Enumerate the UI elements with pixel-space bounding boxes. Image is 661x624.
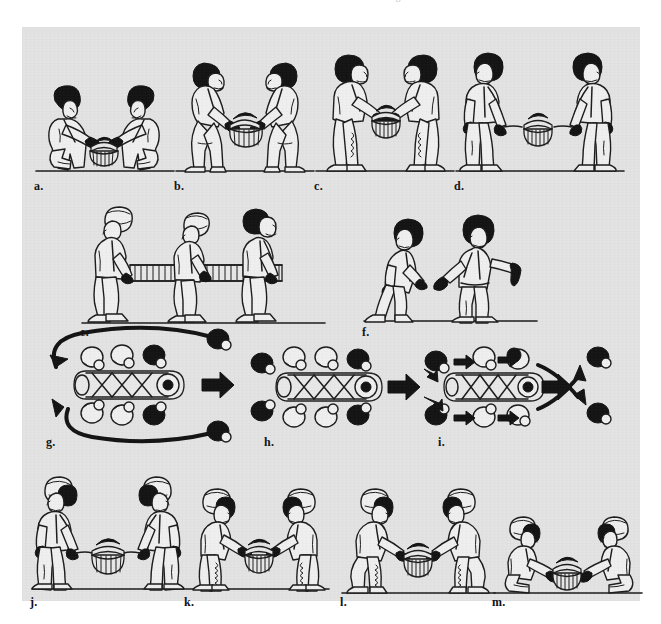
panel-c-illustration [314,41,464,181]
panel-m-illustration [492,505,647,601]
panel-i-label: i. [438,435,445,450]
panel-m-label: m. [492,595,506,610]
panel-j-label: j. [30,595,38,610]
panel-b-illustration [174,47,324,182]
panel-h-label: h. [264,435,274,450]
panel-d-label: d. [454,179,464,194]
panel-i-diagram [414,335,634,440]
running-header: Patient Handling and Immobilization 213 [0,0,661,5]
panel-l-label: l. [340,595,347,610]
panel-c-label: c. [314,179,323,194]
panel-b-label: b. [174,179,184,194]
travel-direction-arrow [202,372,234,398]
panel-a-illustration [34,67,184,182]
scanned-book-page: Patient Handling and Immobilization 213 [0,0,661,624]
panel-g-label: g. [46,435,56,450]
panel-k-label: k. [184,595,194,610]
panel-l-illustration [340,475,500,601]
panel-d-illustration [454,41,629,181]
header-title: Patient Handling and Immobilization [330,0,486,2]
panel-f-illustration [362,207,542,332]
panel-h-diagram [238,335,428,440]
panel-a-label: a. [34,179,44,194]
panel-k-illustration [184,477,334,597]
panel-g-diagram [26,325,246,445]
panel-j-illustration [30,467,190,597]
panel-e-illustration [80,195,330,335]
figure-panel: a. [22,27,640,601]
page-number: 213 [616,0,631,2]
